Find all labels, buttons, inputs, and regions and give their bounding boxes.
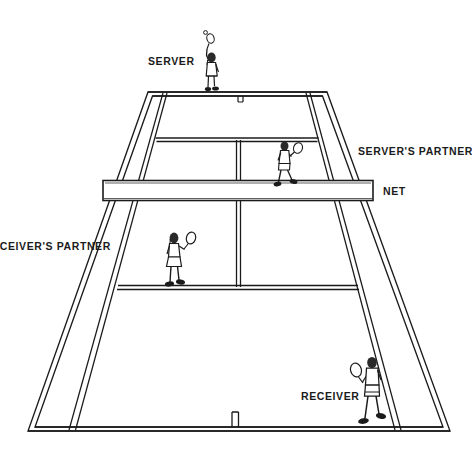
label-net: NET — [383, 186, 406, 197]
label-receiver: RECEIVER — [301, 391, 359, 402]
net — [103, 181, 373, 201]
court-illustration — [0, 0, 472, 459]
label-servers-partner: SERVER'S PARTNER — [358, 146, 472, 157]
tennis-court-diagram: SERVER SERVER'S PARTNER NET RECEIVER'S P… — [0, 0, 472, 459]
label-receivers-partner: RECEIVER'S PARTNER — [0, 241, 111, 252]
label-server: SERVER — [148, 56, 195, 67]
court-surface — [28, 92, 450, 431]
player-server-figure — [204, 31, 219, 91]
